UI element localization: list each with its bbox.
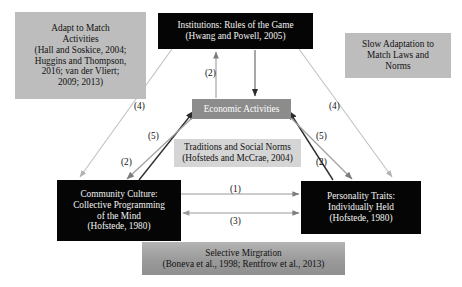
arrow-label-2-left: (2): [121, 157, 132, 167]
arrow-label-4-right: (4): [329, 101, 340, 111]
box-personality-traits: Personality Traits: Individually Held (H…: [301, 181, 421, 234]
arrow-label-1: (1): [230, 184, 241, 194]
box-adapt-to-match-activities: Adapt to Match Activities (Hall and Sosk…: [15, 12, 146, 99]
box-personality-traits-label: Personality Traits: Individually Held (H…: [301, 191, 421, 224]
arrow-label-2-institutions: (2): [205, 68, 216, 78]
box-economic-activities-label: Economic Activities: [192, 104, 291, 115]
box-slow-adaptation: Slow Adaptation to Match Laws and Norms: [345, 33, 451, 78]
box-institutions: Institutions: Rules of the Game (Hwang a…: [158, 13, 313, 49]
box-slow-adaptation-label: Slow Adaptation to Match Laws and Norms: [345, 39, 451, 72]
arrow-label-5-left: (5): [148, 131, 159, 141]
box-adapt-label: Adapt to Match Activities (Hall and Sosk…: [15, 23, 146, 89]
box-community-culture: Community Culture: Collective Programmin…: [57, 180, 181, 241]
box-selective-migration: Selective Mirgration (Boneva et al., 199…: [142, 242, 345, 275]
box-institutions-label: Institutions: Rules of the Game (Hwang a…: [158, 20, 313, 42]
box-selective-migration-label: Selective Mirgration (Boneva et al., 199…: [142, 248, 345, 270]
box-traditions-label: Traditions and Social Norms (Hofsteds an…: [174, 142, 301, 164]
box-community-culture-label: Community Culture: Collective Programmin…: [57, 189, 181, 233]
diagram-canvas: Adapt to Match Activities (Hall and Sosk…: [0, 0, 462, 287]
box-economic-activities: Economic Activities: [192, 99, 291, 119]
arrow-label-3: (3): [230, 216, 241, 226]
box-traditions-and-social-norms: Traditions and Social Norms (Hofsteds an…: [174, 139, 301, 167]
arrow-label-5-right: (5): [316, 131, 327, 141]
arrow-label-4-left: (4): [134, 101, 145, 111]
arrow-label-2-right: (2): [316, 157, 327, 167]
